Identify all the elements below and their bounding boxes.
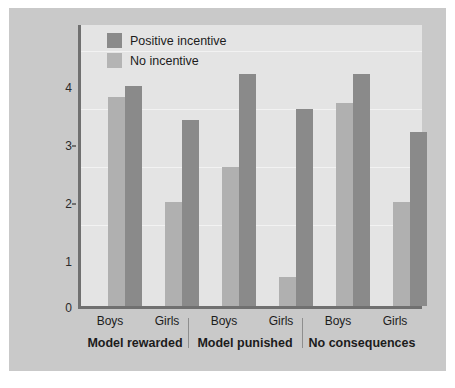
bar-no-consequences-boys-positive-incentive	[353, 74, 370, 306]
x-group-label-no-consequences: No consequences	[307, 336, 417, 350]
bar-model-punished-boys-positive-incentive	[239, 74, 256, 306]
legend-item-no-incentive: No incentive	[107, 53, 227, 68]
legend: Positive incentive No incentive	[107, 33, 227, 73]
plot-area: Positive incentive No incentive	[78, 25, 422, 309]
x-sub-label-5: Girls	[370, 315, 420, 328]
x-sub-label-3: Girls	[256, 315, 306, 328]
legend-label-positive-incentive: Positive incentive	[130, 34, 227, 48]
bar-no-consequences-boys-no-incentive	[336, 103, 353, 306]
legend-swatch-icon-positive-incentive	[107, 33, 122, 48]
y-tick-mark-2	[72, 203, 76, 205]
bar-model-punished-girls-no-incentive	[279, 277, 296, 306]
y-tick-mark-3	[72, 145, 76, 147]
bar-model-rewarded-boys-no-incentive	[108, 97, 125, 306]
bar-no-consequences-girls-positive-incentive	[410, 132, 427, 306]
legend-label-no-incentive: No incentive	[130, 54, 199, 68]
plot-inner: Positive incentive No incentive	[81, 25, 422, 306]
x-group-separator-2	[302, 318, 303, 348]
x-sub-label-1: Girls	[142, 315, 192, 328]
x-sub-label-0: Boys	[85, 315, 135, 328]
bar-model-punished-boys-no-incentive	[222, 167, 239, 306]
x-group-label-model-punished: Model punished	[193, 336, 297, 350]
x-sub-label-2: Boys	[199, 315, 249, 328]
y-tick-label-0: 0	[50, 302, 72, 314]
y-tick-label-2: 2	[50, 198, 72, 210]
chart-figure: Mean number of different imitative respo…	[0, 0, 455, 388]
bar-no-consequences-girls-no-incentive	[393, 202, 410, 306]
x-group-label-model-rewarded: Model rewarded	[83, 336, 187, 350]
x-sub-label-4: Boys	[313, 315, 363, 328]
legend-swatch-icon-no-incentive	[107, 53, 122, 68]
y-tick-label-3: 3	[50, 140, 72, 152]
x-group-separator-1	[188, 318, 189, 348]
bar-model-rewarded-girls-positive-incentive	[182, 120, 199, 306]
bar-model-rewarded-girls-no-incentive	[165, 202, 182, 306]
legend-item-positive-incentive: Positive incentive	[107, 33, 227, 48]
bar-model-punished-girls-positive-incentive	[296, 109, 313, 306]
bar-model-rewarded-boys-positive-incentive	[125, 86, 142, 306]
y-tick-label-4: 4	[50, 82, 72, 94]
y-tick-label-1: 1	[50, 256, 72, 268]
